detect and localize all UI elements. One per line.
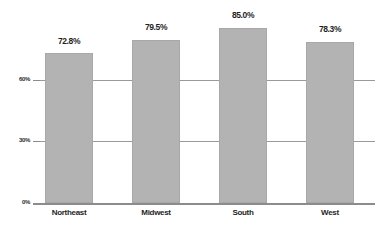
bar-midwest[interactable] — [132, 40, 180, 203]
bar-chart: 60% 30% 0% 72.8% 79.5% 85.0% 78.3% North… — [0, 0, 381, 237]
category-label-south: South — [203, 208, 283, 218]
category-label-midwest: Midwest — [116, 208, 196, 218]
y-tick-label-30: 30% — [8, 137, 30, 144]
y-tick-mark-0 — [33, 203, 40, 204]
category-label-northeast: Northeast — [29, 208, 109, 218]
bar-value-label-west: 78.3% — [300, 24, 360, 34]
bar-south[interactable] — [219, 28, 267, 203]
y-tick-mark-30 — [33, 141, 40, 142]
bar-value-label-northeast: 72.8% — [39, 36, 99, 46]
y-tick-label-0: 0% — [8, 199, 30, 206]
y-tick-label-60: 60% — [8, 76, 30, 83]
category-label-west: West — [290, 208, 370, 218]
y-tick-mark-60 — [33, 80, 40, 81]
x-axis-line — [33, 203, 375, 205]
bar-northeast[interactable] — [45, 53, 93, 203]
bar-value-label-south: 85.0% — [213, 10, 273, 20]
bar-value-label-midwest: 79.5% — [126, 22, 186, 32]
bar-west[interactable] — [306, 42, 354, 203]
